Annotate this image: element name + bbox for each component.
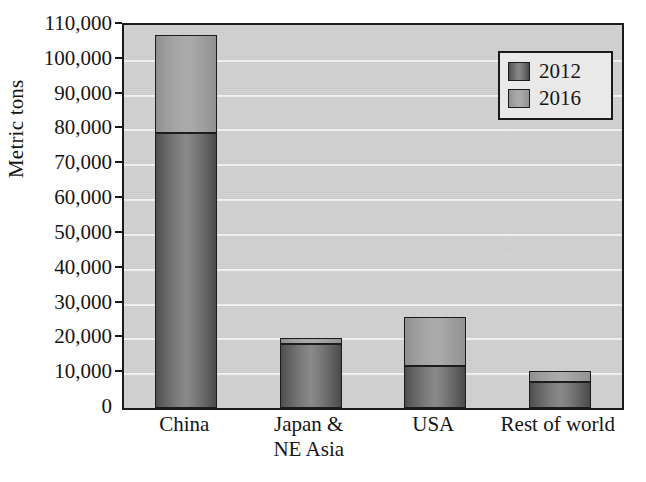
bar-segment-2012 — [529, 382, 591, 408]
x-axis-label-line1: Japan & — [274, 412, 343, 436]
bar-segment-2016 — [529, 371, 591, 381]
y-axis-tick-label: 100,000 — [0, 47, 112, 68]
chart-legend: 20122016 — [498, 51, 613, 120]
y-axis-tick-mark — [115, 370, 122, 372]
y-axis-tick-label: 40,000 — [0, 256, 112, 277]
y-axis-tick-label: 60,000 — [0, 187, 112, 208]
y-axis-tick-label: 30,000 — [0, 291, 112, 312]
y-axis-tick-label: 70,000 — [0, 152, 112, 173]
x-axis-label-line1: China — [159, 412, 209, 436]
bar-segment-2012 — [404, 366, 466, 408]
legend-item: 2016 — [508, 85, 604, 112]
bar-segment-2012 — [155, 133, 217, 408]
y-axis-tick-mark — [115, 335, 122, 337]
y-axis-tick-label: 20,000 — [0, 326, 112, 347]
y-axis-tick-mark — [115, 301, 122, 303]
x-axis-label-line1: USA — [412, 412, 454, 436]
bar-segment-2016 — [404, 317, 466, 366]
legend-swatch-2012 — [508, 62, 530, 81]
bar-group — [155, 25, 217, 408]
bar-segment-2016 — [155, 35, 217, 132]
legend-item: 2012 — [508, 58, 604, 85]
legend-swatch-2016 — [508, 89, 530, 108]
y-axis-tick-mark — [115, 161, 122, 163]
bar-group — [404, 25, 466, 408]
x-axis-label-line2: NE Asia — [219, 437, 399, 462]
y-axis-tick-mark — [115, 266, 122, 268]
y-axis-tick-label: 10,000 — [0, 361, 112, 382]
y-axis-tick-label: 110,000 — [0, 13, 112, 34]
x-axis-label-line1: Rest of world — [501, 412, 615, 436]
y-axis-tick-mark — [115, 57, 122, 59]
x-axis-tick-labels: ChinaJapan &NE AsiaUSARest of world — [122, 412, 620, 478]
stacked-bar-chart: Metric tons 010,00020,00030,00040,00050,… — [0, 0, 646, 482]
bar-segment-2012 — [280, 344, 342, 408]
legend-label: 2016 — [539, 88, 581, 109]
bar-segment-2016 — [280, 338, 342, 343]
x-axis-tick-label: Rest of world — [468, 412, 646, 437]
y-axis-tick-labels: 010,00020,00030,00040,00050,00060,00070,… — [0, 0, 112, 482]
legend-label: 2012 — [539, 61, 581, 82]
y-axis-tick-mark — [115, 196, 122, 198]
y-axis-tick-label: 90,000 — [0, 82, 112, 103]
y-axis-tick-mark — [115, 92, 122, 94]
y-axis-tick-mark — [115, 22, 122, 24]
y-axis-tick-label: 80,000 — [0, 117, 112, 138]
bar-group — [280, 25, 342, 408]
y-axis-tick-label: 50,000 — [0, 221, 112, 242]
y-axis-tick-mark — [115, 126, 122, 128]
y-axis-tick-mark — [115, 231, 122, 233]
